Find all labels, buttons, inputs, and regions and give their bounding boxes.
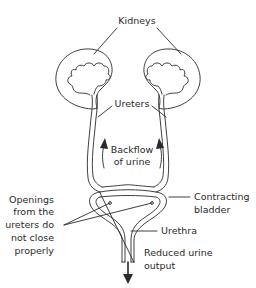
backflow-left-arrowhead [100, 138, 108, 149]
openings-label-line4: not close [11, 232, 54, 243]
ureters-label: Ureters [115, 98, 150, 109]
urine-output-arrowhead [123, 274, 133, 284]
backflow-label-line1: Backflow [111, 144, 154, 155]
backflow-left-arrow [100, 138, 108, 168]
openings-label-line1: Openings [9, 194, 54, 205]
openings-label-line2: from the [13, 206, 54, 217]
urine-output-arrow [123, 262, 133, 284]
openings-label-line5: properly [14, 245, 54, 256]
openings-label-line3: ureters do [5, 219, 54, 230]
output-label-line1: Reduced urine [144, 247, 213, 258]
right-renal-pelvis [146, 63, 188, 95]
openings-leader-upper [64, 203, 110, 225]
output-label-line2: output [144, 260, 176, 271]
left-renal-pelvis [68, 63, 110, 95]
urinary-system-diagram: Kidneys Ureters Backflow of urine Openin… [0, 0, 256, 288]
kidneys-leader-left [94, 28, 117, 54]
right-kidney [144, 49, 200, 109]
kidneys-label: Kidneys [118, 15, 155, 26]
backflow-label-line2: of urine [114, 156, 151, 167]
bladder-label-line1: Contracting [194, 191, 250, 202]
bladder-label-line2: bladder [194, 204, 230, 215]
left-kidney [56, 49, 112, 109]
ureters-leader-left [98, 106, 112, 117]
urethra-label: Urethra [161, 225, 197, 236]
